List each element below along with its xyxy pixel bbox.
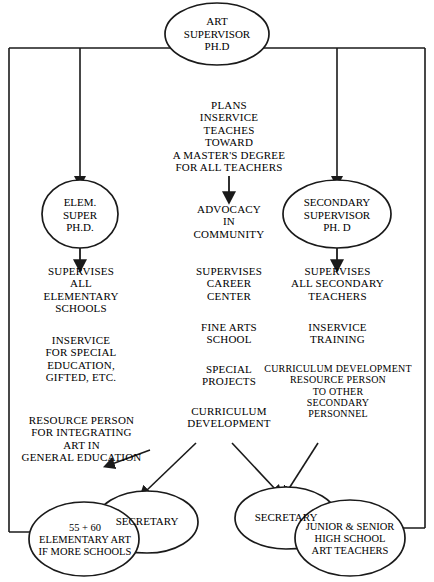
label-high-school-art: JUNIOR & SENIOR HIGH SCHOOL ART TEACHERS xyxy=(289,521,411,557)
label-art-supervisor: ART SUPERVISOR PH.D xyxy=(157,15,277,53)
org-chart-diagram: ART SUPERVISOR PH.D ELEM. SUPER PH.D. SE… xyxy=(0,0,434,582)
text-plans-block: PLANS INSERVICE TEACHES TOWARD A MASTER'… xyxy=(149,99,309,174)
text-inservice-training: INSERVICE TRAINING xyxy=(265,321,410,346)
text-inservice-special: INSERVICE FOR SPECIAL EDUCATION, GIFTED,… xyxy=(24,334,138,384)
arrow-curriculum-to-secretary-left xyxy=(146,443,196,491)
label-secondary-supervisor: SECONDARY SUPERVISOR PH. D xyxy=(272,196,402,234)
text-advocacy: ADVOCACY IN COMMUNITY xyxy=(169,203,289,240)
text-resource-person: RESOURCE PERSON FOR INTEGRATING ART IN G… xyxy=(13,414,150,464)
label-elementary-art: 55 + 60 ELEMENTARY ART IF MORE SCHOOLS xyxy=(24,522,146,558)
arrow-secondary-duties-to-secretary-right xyxy=(288,443,318,490)
text-supervises-secondary: SUPERVISES ALL SECONDARY TEACHERS xyxy=(265,265,410,302)
text-supervises-elementary: SUPERVISES ALL ELEMENTARY SCHOOLS xyxy=(24,265,138,315)
text-curriculum-resource: CURRICULUM DEVELOPMENT RESOURCE PERSON T… xyxy=(251,363,425,419)
arrow-curriculum-to-secretary-right xyxy=(232,443,276,490)
label-elem-super: ELEM. SUPER PH.D. xyxy=(30,196,130,234)
